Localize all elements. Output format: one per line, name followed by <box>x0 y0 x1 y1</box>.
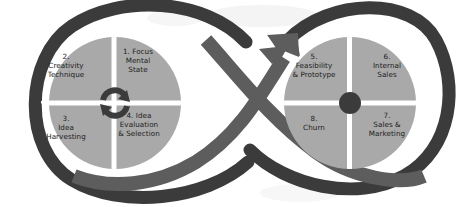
center-dot-icon <box>339 92 361 114</box>
tick-left <box>41 101 55 104</box>
infinity-loop-diagram: 1. Focus Mental State 2. Creativity Tech… <box>0 0 458 207</box>
tick-right <box>408 101 423 104</box>
infinity-diagram-canvas <box>0 0 458 207</box>
left-loop-circle <box>42 30 188 176</box>
left-circle-dividers <box>42 30 188 176</box>
